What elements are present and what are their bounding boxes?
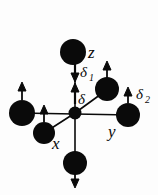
spin-arrowhead-left-icon xyxy=(18,82,26,91)
spin-arrow-left-site xyxy=(18,82,26,100)
site-top xyxy=(60,39,86,65)
site-left xyxy=(9,100,35,126)
site-right xyxy=(116,103,140,127)
label-delta1: δ 1 xyxy=(80,64,94,83)
delta1-arrowhead-icon xyxy=(71,73,79,82)
delta2-subscript: 2 xyxy=(145,94,150,105)
spin-arrowhead-upper-right-icon xyxy=(103,61,111,70)
delta1-vector xyxy=(71,64,79,82)
spin-arrowhead-right-icon xyxy=(124,87,132,96)
axis-label-z: z xyxy=(87,43,95,62)
axis-label-y: y xyxy=(106,122,116,141)
lattice-figure: z y x δ 1 δ δ 2 xyxy=(0,0,158,195)
lattice-diagram: z y x δ 1 δ δ 2 xyxy=(0,0,158,195)
delta1-subscript: 1 xyxy=(89,72,94,83)
lattice-sites xyxy=(9,39,140,175)
label-delta: δ xyxy=(78,91,86,107)
site-upper-right xyxy=(95,77,119,101)
spin-arrowhead-bottom-icon xyxy=(71,179,79,188)
delta1-base: δ xyxy=(80,64,88,80)
spin-arrow-right-site xyxy=(124,87,132,103)
delta2-base: δ xyxy=(136,86,144,102)
site-center xyxy=(69,107,82,120)
spin-arrow-lower-left-site xyxy=(40,105,48,122)
axis-label-x: x xyxy=(51,134,60,153)
label-delta2: δ 2 xyxy=(136,86,150,105)
spin-arrowhead-lower-left-icon xyxy=(40,105,48,114)
site-bottom xyxy=(63,151,87,175)
spin-arrow-upper-right-site xyxy=(103,61,111,78)
